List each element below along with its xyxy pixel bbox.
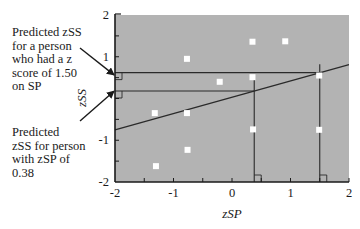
data-point	[249, 74, 255, 80]
data-point	[185, 147, 191, 153]
data-point	[184, 56, 190, 62]
data-point	[249, 39, 255, 45]
svg-text:0: 0	[229, 186, 235, 200]
data-point	[152, 110, 158, 116]
x-axis-label: zSP	[221, 206, 242, 221]
data-point	[316, 73, 322, 79]
data-point	[184, 110, 190, 116]
data-point	[282, 38, 288, 44]
plot-area	[115, 15, 349, 182]
svg-text:2: 2	[346, 186, 352, 200]
svg-text:1: 1	[287, 186, 293, 200]
svg-text:-2: -2	[110, 186, 120, 200]
data-point	[153, 163, 159, 169]
data-point	[217, 79, 223, 85]
data-point	[316, 127, 322, 133]
annotation-predicted-zss-0-38: Predicted zSS for person with zSP of 0.3…	[12, 126, 112, 180]
svg-text:-1: -1	[168, 186, 178, 200]
svg-text:2: 2	[103, 8, 109, 22]
data-point	[250, 126, 256, 132]
annotation-predicted-zss-1-50: Predicted zSS for a person who had a z s…	[12, 26, 112, 94]
